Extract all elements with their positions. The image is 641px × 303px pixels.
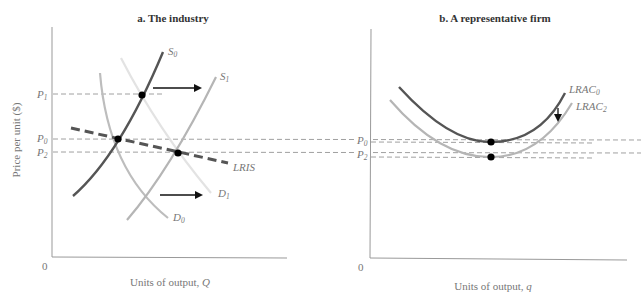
svg-text:P2: P2 bbox=[36, 146, 48, 160]
curve-d1 bbox=[121, 58, 211, 193]
curve-s0 bbox=[73, 52, 163, 196]
svg-text:P0: P0 bbox=[36, 132, 48, 146]
x-axis-b bbox=[370, 258, 627, 260]
origin-label: 0 bbox=[42, 260, 48, 272]
price-label-p1: P1 bbox=[36, 88, 47, 102]
label-lrac2: LRAC2 bbox=[575, 100, 607, 114]
label-lrac0: LRAC0 bbox=[568, 83, 600, 97]
label-s0: S0 bbox=[168, 45, 178, 59]
curve-lris bbox=[71, 128, 228, 163]
x-axis bbox=[52, 257, 287, 258]
panel-industry: a. The industry Price per unit ($) 0 Uni… bbox=[10, 12, 641, 288]
y-axis-label: Price per unit ($) bbox=[10, 102, 23, 177]
panel-firm: b. A representative firm 0 Units of outp… bbox=[356, 12, 627, 292]
chart-canvas: a. The industry Price per unit ($) 0 Uni… bbox=[0, 0, 641, 303]
curve-d0 bbox=[100, 73, 168, 218]
label-d0: D0 bbox=[172, 211, 185, 225]
label-lris: LRIS bbox=[232, 161, 256, 173]
x-axis-label-b: Units of output, q bbox=[454, 280, 532, 292]
point-lrac2-min bbox=[487, 153, 494, 160]
panel-b-title: b. A representative firm bbox=[439, 12, 550, 24]
svg-text:P1: P1 bbox=[36, 88, 47, 102]
point-lrac0-min bbox=[487, 138, 494, 145]
price-label-p0: P0 bbox=[36, 132, 48, 146]
label-s1: S1 bbox=[220, 70, 229, 84]
panel-a-title: a. The industry bbox=[137, 12, 209, 24]
y-axis-b bbox=[370, 29, 371, 258]
point-long-run-equilibrium bbox=[174, 149, 181, 156]
point-initial-equilibrium bbox=[114, 135, 121, 142]
curve-lrac2 bbox=[390, 100, 572, 157]
point-short-run-equilibrium bbox=[138, 91, 145, 98]
origin-label-b: 0 bbox=[358, 261, 364, 273]
guide-p2 bbox=[53, 152, 641, 153]
price-label-p2: P2 bbox=[36, 146, 48, 160]
guide-p0 bbox=[53, 139, 641, 140]
label-d1: D1 bbox=[217, 187, 230, 201]
x-axis-label: Units of output, Q bbox=[130, 276, 210, 288]
curve-s1 bbox=[127, 77, 216, 220]
